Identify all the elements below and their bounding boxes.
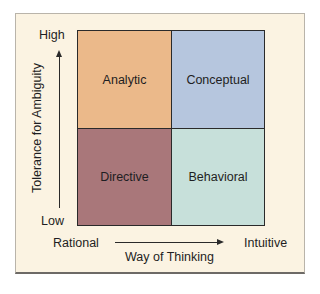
quadrant-label: Directive bbox=[100, 170, 149, 184]
quadrant-grid: Analytic Conceptual Directive Behavioral bbox=[77, 30, 265, 226]
quadrant-label: Behavioral bbox=[188, 170, 247, 184]
x-axis-arrow-line bbox=[115, 242, 218, 243]
y-axis-low-label: Low bbox=[41, 214, 64, 228]
quadrant-label: Conceptual bbox=[186, 73, 249, 87]
x-axis-arrowhead-icon bbox=[217, 239, 224, 245]
y-axis-arrow-line bbox=[59, 55, 60, 208]
quadrant-conceptual: Conceptual bbox=[172, 31, 264, 129]
quadrant-directive: Directive bbox=[78, 129, 172, 225]
quadrant-analytic: Analytic bbox=[78, 31, 172, 129]
quadrant-label: Analytic bbox=[103, 73, 147, 87]
x-axis-title: Way of Thinking bbox=[125, 250, 214, 264]
y-axis-high-label: High bbox=[39, 28, 65, 42]
y-axis-title: Tolerance for Ambiguity bbox=[30, 63, 44, 193]
x-axis-right-label: Intuitive bbox=[244, 236, 287, 250]
x-axis-left-label: Rational bbox=[53, 236, 99, 250]
quadrant-behavioral: Behavioral bbox=[172, 129, 264, 225]
